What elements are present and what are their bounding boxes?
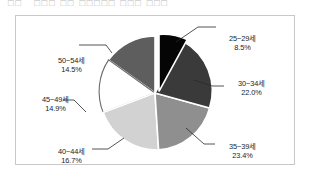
pie-label-2529-value: 8.5% <box>229 43 256 52</box>
chart-screenshot: □□ □□□ □□ □□□□□ □□□ □□□ <box>0 0 310 181</box>
pie-label-2529-name: 25~29세 <box>229 34 256 43</box>
pie-label-4549-name: 45~49세 <box>42 95 69 104</box>
pie-chart <box>96 33 218 153</box>
pie-label-4044-value: 16.7% <box>58 156 85 165</box>
pie-label-4549-value: 14.9% <box>42 104 69 113</box>
cropped-title-strip: □□ □□□ □□ □□□□□ □□□ □□□ <box>0 0 310 13</box>
page-title: □□ □□□ □□ □□□□□ □□□ □□□ <box>8 0 169 9</box>
pie-label-3539-value: 23.4% <box>229 151 256 160</box>
chart-panel: 25~29세 8.5% 30~34세 22.0% 35~39세 23.4% 40… <box>15 15 295 165</box>
pie-label-3034-name: 30~34세 <box>238 79 265 88</box>
pie-label-5054-name: 50~54세 <box>58 56 85 65</box>
pie-label-3034: 30~34세 22.0% <box>238 79 265 97</box>
pie-label-3539: 35~39세 23.4% <box>229 142 256 160</box>
pie-label-3539-name: 35~39세 <box>229 142 256 151</box>
pie-label-2529: 25~29세 8.5% <box>229 34 256 52</box>
pie-label-4549: 45~49세 14.9% <box>42 95 69 113</box>
pie-label-5054-value: 14.5% <box>58 65 85 74</box>
pie-label-4044-name: 40~44세 <box>58 147 85 156</box>
pie-label-5054: 50~54세 14.5% <box>58 56 85 74</box>
pie-label-3034-value: 22.0% <box>238 88 265 97</box>
pie-svg <box>96 33 218 153</box>
pie-label-4044: 40~44세 16.7% <box>58 147 85 165</box>
